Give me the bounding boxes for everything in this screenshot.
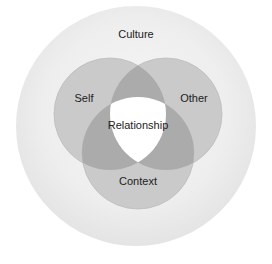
self-label: Self: [75, 92, 95, 104]
culture-label: Culture: [118, 28, 153, 40]
relationship-label: Relationship: [108, 119, 169, 131]
venn-diagram: Culture Self Other Relationship Context: [0, 0, 272, 264]
other-label: Other: [180, 92, 208, 104]
context-label: Context: [119, 175, 157, 187]
